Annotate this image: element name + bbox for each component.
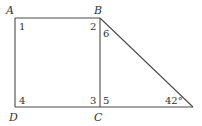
angle-label-1: 1 [19,21,25,32]
angle-label-42-degrees: 42° [165,95,183,106]
vertex-label-a: A [5,4,14,17]
angle-label-6: 6 [103,28,109,39]
vertex-label-c: C [94,111,103,124]
angle-label-5: 5 [103,95,109,106]
angle-label-2: 2 [90,21,96,32]
vertex-label-d: D [8,111,18,124]
angle-label-3: 3 [90,95,96,106]
vertex-label-b: B [93,4,102,17]
angle-label-4: 4 [19,95,25,106]
geometry-diagram: A B C D 1 2 6 4 3 5 42° [0,0,202,126]
segment-b-hypotenuse [100,18,193,107]
